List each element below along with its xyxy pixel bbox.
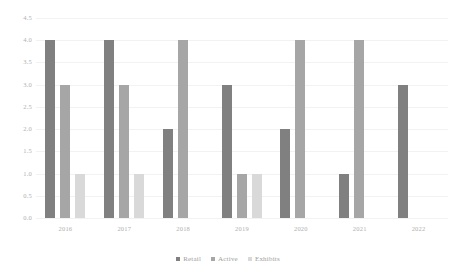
bar-retail-2019 <box>222 85 232 218</box>
x-tick-label-2018: 2018 <box>154 222 213 236</box>
legend-label: Exhibits <box>255 254 280 264</box>
legend-swatch-icon <box>248 257 252 261</box>
bar-exhibits-2016 <box>75 174 85 218</box>
x-tick-label-2019: 2019 <box>213 222 272 236</box>
y-tick-label: 3.0 <box>6 79 32 90</box>
x-tick-label-2020: 2020 <box>271 222 330 236</box>
legend-label: Active <box>218 254 238 264</box>
x-tick-label-2022: 2022 <box>389 222 448 236</box>
y-tick-label: 3.5 <box>6 56 32 67</box>
bar-active-2021 <box>354 40 364 218</box>
x-tick-label-2021: 2021 <box>330 222 389 236</box>
bar-retail-2018 <box>163 129 173 218</box>
bar-retail-2017 <box>104 40 114 218</box>
bar-group-2019 <box>213 18 272 218</box>
y-tick-label: 1.0 <box>6 168 32 179</box>
bar-retail-2016 <box>45 40 55 218</box>
bar-exhibits-2017 <box>134 174 144 218</box>
chart-legend: RetailActiveExhibits <box>0 252 456 266</box>
bar-chart: 4.54.03.53.02.52.01.51.00.50.0 201620172… <box>0 0 456 275</box>
bar-active-2016 <box>60 85 70 218</box>
bar-group-2017 <box>95 18 154 218</box>
bar-group-2022 <box>389 18 448 218</box>
y-tick-label: 2.0 <box>6 123 32 134</box>
y-tick-label: 2.5 <box>6 101 32 112</box>
bar-active-2019 <box>237 174 247 218</box>
gridline <box>36 218 448 219</box>
bar-retail-2021 <box>339 174 349 218</box>
plot-area <box>36 18 448 218</box>
legend-item-exhibits[interactable]: Exhibits <box>248 254 280 264</box>
bar-group-2021 <box>330 18 389 218</box>
x-tick-label-2017: 2017 <box>95 222 154 236</box>
legend-swatch-icon <box>211 257 215 261</box>
legend-item-retail[interactable]: Retail <box>176 254 201 264</box>
bar-active-2018 <box>178 40 188 218</box>
bar-retail-2020 <box>280 129 290 218</box>
y-tick-label: 4.5 <box>6 12 32 23</box>
bar-exhibits-2019 <box>252 174 262 218</box>
legend-swatch-icon <box>176 257 180 261</box>
x-axis: 2016201720182019202020212022 <box>36 222 448 236</box>
bar-group-2020 <box>271 18 330 218</box>
bar-active-2020 <box>295 40 305 218</box>
bar-retail-2022 <box>398 85 408 218</box>
y-tick-label: 4.0 <box>6 34 32 45</box>
bar-group-2016 <box>36 18 95 218</box>
y-tick-label: 1.5 <box>6 145 32 156</box>
legend-label: Retail <box>183 254 201 264</box>
legend-item-active[interactable]: Active <box>211 254 238 264</box>
bar-group-2018 <box>154 18 213 218</box>
y-tick-label: 0.5 <box>6 190 32 201</box>
bar-active-2017 <box>119 85 129 218</box>
x-tick-label-2016: 2016 <box>36 222 95 236</box>
y-tick-label: 0.0 <box>6 212 32 223</box>
